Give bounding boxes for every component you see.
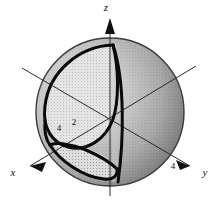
y-axis-label: y: [202, 166, 208, 178]
z-axis-arrow: [105, 18, 115, 34]
tick-label-y-4: 4: [171, 161, 176, 171]
figure-canvas: x y z 4 2 4: [0, 0, 219, 209]
sphere-diagram-svg: x y z 4 2 4: [0, 0, 219, 209]
tick-label-x-4: 4: [57, 123, 62, 133]
x-axis-arrow: [30, 162, 46, 172]
tick-label-interior-2: 2: [72, 117, 77, 127]
z-axis-label: z: [103, 1, 109, 13]
x-axis-label: x: [10, 166, 16, 178]
